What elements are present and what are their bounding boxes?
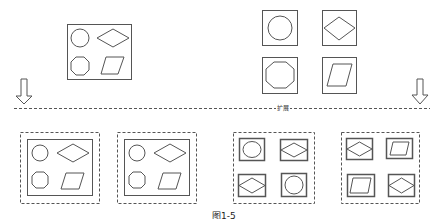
dashed-frame <box>21 133 100 204</box>
down-arrow-left-icon <box>16 79 32 104</box>
circle-shape <box>32 145 48 161</box>
circle-shape <box>268 16 292 40</box>
circle-shape <box>243 142 261 158</box>
down-arrow-right-icon <box>412 79 428 104</box>
octagon-shape <box>266 62 294 88</box>
top-right-group <box>263 11 357 94</box>
parallelogram-shape <box>61 173 84 189</box>
diamond-shape <box>324 17 355 40</box>
solid-frame <box>125 140 190 196</box>
parallelogram-shape <box>101 57 124 74</box>
octagon-shape <box>129 172 145 188</box>
dashed-frame <box>118 133 197 204</box>
bottom-group-1 <box>21 133 100 204</box>
figure-caption: 图1-5 <box>212 211 236 219</box>
solid-frame <box>28 140 93 196</box>
dashed-frame <box>234 133 315 204</box>
cell-frame <box>323 11 357 46</box>
bottom-group-2 <box>118 133 197 204</box>
diamond-shape <box>154 144 186 162</box>
parallelogram-shape <box>327 64 352 86</box>
circle-shape <box>129 145 145 161</box>
diamond-shape <box>239 178 265 193</box>
top-left-group <box>68 25 132 80</box>
cell-frame <box>323 58 357 94</box>
parallelogram-shape <box>390 142 409 155</box>
octagon-shape <box>32 172 48 188</box>
diamond-shape <box>97 29 129 47</box>
octagon-shape <box>71 57 89 75</box>
solid-frame <box>68 25 132 80</box>
diamond-shape <box>389 178 414 193</box>
bottom-group-4 <box>342 133 420 204</box>
diamond-shape <box>281 143 307 157</box>
bottom-group-3 <box>234 133 315 204</box>
diamond-shape <box>57 144 89 162</box>
divider-label: 扩展 <box>276 104 290 112</box>
diagram-canvas <box>0 0 443 219</box>
parallelogram-shape <box>350 178 371 193</box>
diamond-shape <box>347 142 372 156</box>
parallelogram-shape <box>158 173 181 189</box>
circle-shape <box>71 29 89 47</box>
circle-shape <box>285 176 303 194</box>
